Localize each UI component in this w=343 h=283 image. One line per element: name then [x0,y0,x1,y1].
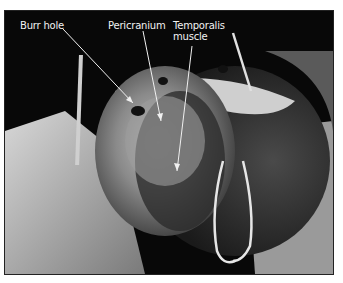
label-pericranium: Pericranium [108,20,165,31]
photo-illustration [5,11,333,274]
surgical-photo [4,10,334,275]
label-burr-hole: Burr hole [20,20,64,31]
label-temporalis-line1: Temporalis [173,20,225,31]
label-temporalis-line2: muscle [173,31,208,42]
